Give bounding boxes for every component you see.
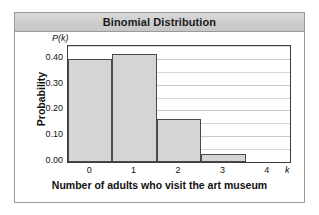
y-tick-label-0.30: 0.30 bbox=[33, 78, 63, 88]
x-axis-variable-symbol: k bbox=[285, 165, 290, 175]
chart-title: Binomial Distribution bbox=[103, 16, 216, 28]
y-tick-label-0.00: 0.00 bbox=[33, 155, 63, 165]
y-axis-tick-labels: 0.000.100.200.300.40 bbox=[29, 45, 63, 163]
plot-area bbox=[67, 45, 291, 163]
bar-k-1 bbox=[112, 54, 156, 162]
x-axis-title: Number of adults who visit the art museu… bbox=[15, 179, 304, 191]
y-tick-label-0.40: 0.40 bbox=[33, 52, 63, 62]
x-tick-label-4: 4 bbox=[255, 165, 279, 175]
x-tick-label-3: 3 bbox=[210, 165, 234, 175]
y-tick-label-0.20: 0.20 bbox=[33, 103, 63, 113]
x-axis-tick-labels: k 01234 bbox=[67, 165, 291, 178]
y-tick-label-0.10: 0.10 bbox=[33, 129, 63, 139]
gridline bbox=[68, 46, 290, 47]
bar-k-2 bbox=[157, 119, 201, 162]
x-tick-label-1: 1 bbox=[122, 165, 146, 175]
bar-k-0 bbox=[68, 59, 112, 162]
figure-frame: Binomial Distribution Probability P(k) 0… bbox=[14, 12, 305, 203]
bar-k-3 bbox=[201, 154, 245, 162]
y-axis-variable-symbol: P(k) bbox=[52, 33, 69, 43]
x-tick-label-0: 0 bbox=[77, 165, 101, 175]
chart-title-bar: Binomial Distribution bbox=[15, 13, 304, 32]
x-tick-label-2: 2 bbox=[166, 165, 190, 175]
